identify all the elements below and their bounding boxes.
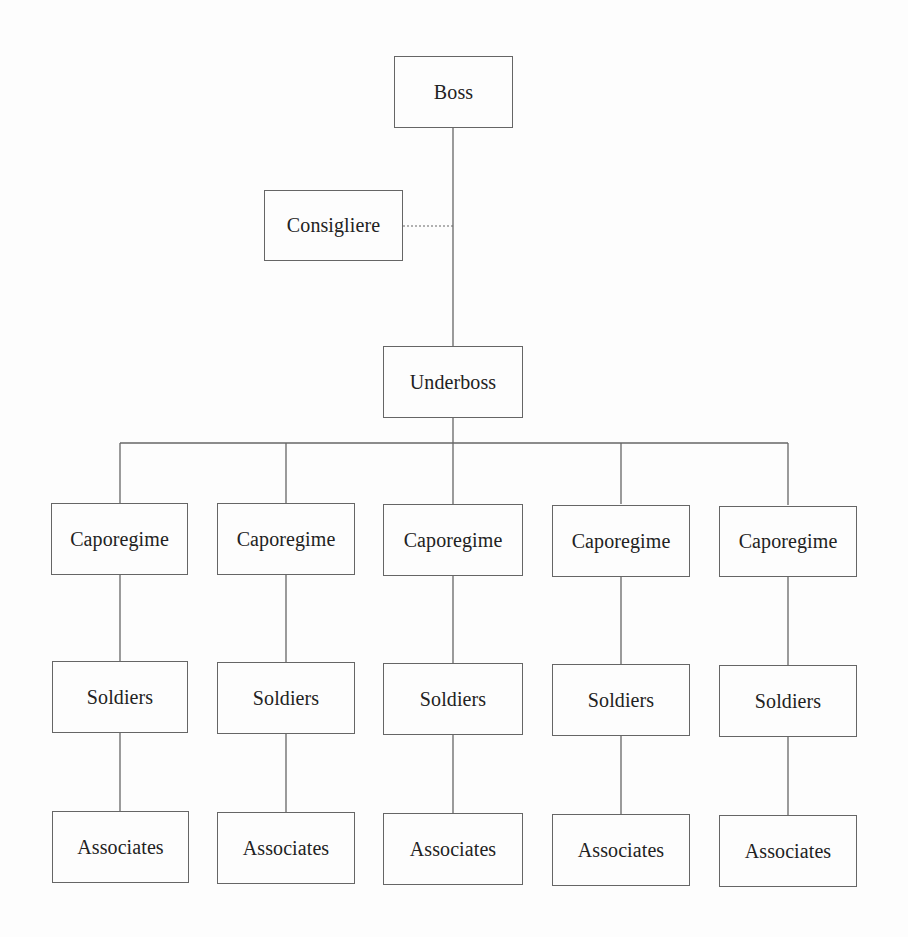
- caporegime-node-1: Caporegime: [51, 503, 188, 575]
- caporegime-node-5: Caporegime: [719, 506, 857, 577]
- soldiers-label: Soldiers: [420, 688, 486, 711]
- associates-label: Associates: [77, 836, 164, 859]
- associates-node-3: Associates: [383, 813, 523, 885]
- associates-label: Associates: [243, 837, 330, 860]
- underboss-node: Underboss: [383, 346, 523, 418]
- caporegime-label: Caporegime: [237, 528, 336, 551]
- soldiers-node-3: Soldiers: [383, 663, 523, 735]
- underboss-label: Underboss: [410, 371, 496, 394]
- boss-node: Boss: [394, 56, 513, 128]
- associates-label: Associates: [410, 838, 497, 861]
- caporegime-node-2: Caporegime: [217, 503, 355, 575]
- caporegime-label: Caporegime: [70, 528, 169, 551]
- associates-node-4: Associates: [552, 814, 690, 886]
- soldiers-node-4: Soldiers: [552, 664, 690, 736]
- soldiers-label: Soldiers: [87, 686, 153, 709]
- associates-label: Associates: [745, 840, 832, 863]
- soldiers-label: Soldiers: [588, 689, 654, 712]
- soldiers-node-5: Soldiers: [719, 665, 857, 737]
- associates-node-5: Associates: [719, 815, 857, 887]
- soldiers-node-2: Soldiers: [217, 662, 355, 734]
- consigliere-label: Consigliere: [287, 214, 380, 237]
- caporegime-node-3: Caporegime: [383, 504, 523, 576]
- boss-label: Boss: [434, 81, 473, 104]
- connector-lines: [0, 0, 908, 937]
- caporegime-label: Caporegime: [404, 529, 503, 552]
- caporegime-node-4: Caporegime: [552, 505, 690, 577]
- caporegime-label: Caporegime: [739, 530, 838, 553]
- soldiers-node-1: Soldiers: [52, 661, 188, 733]
- consigliere-node: Consigliere: [264, 190, 403, 261]
- caporegime-label: Caporegime: [572, 530, 671, 553]
- associates-node-1: Associates: [52, 811, 189, 883]
- associates-node-2: Associates: [217, 812, 355, 884]
- soldiers-label: Soldiers: [755, 690, 821, 713]
- soldiers-label: Soldiers: [253, 687, 319, 710]
- associates-label: Associates: [578, 839, 665, 862]
